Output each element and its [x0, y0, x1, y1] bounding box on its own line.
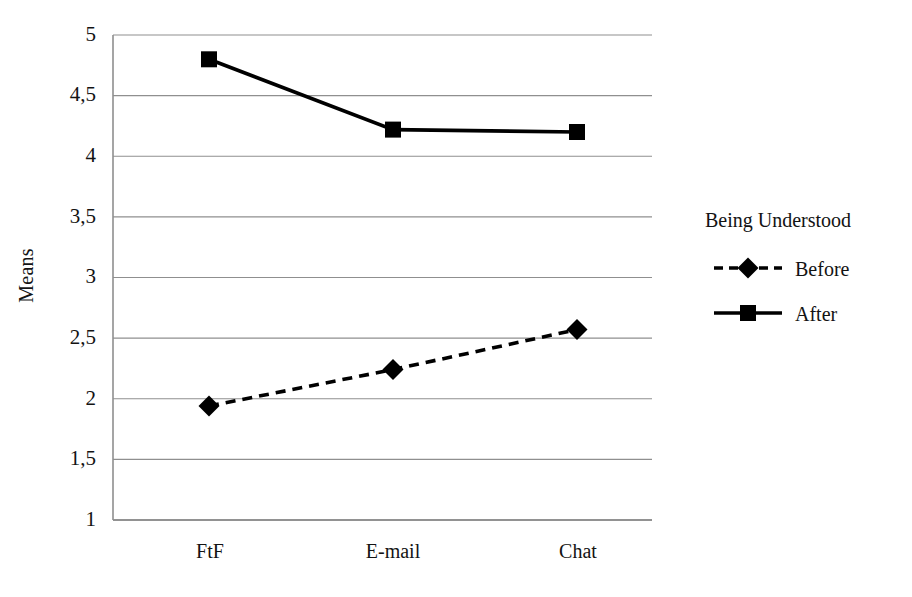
series-after-marker-chat — [569, 124, 585, 140]
line-chart-figure: Means 5 4,5 4 3,5 3 2,5 2 1,5 1 FtF E-ma… — [0, 0, 912, 597]
legend-marker-square-icon — [740, 305, 756, 321]
plot-canvas — [0, 0, 912, 597]
legend-swatch-after — [714, 305, 782, 321]
legend-marker-diamond-icon — [738, 258, 759, 279]
gridlines — [113, 35, 652, 459]
legend-swatch-before — [714, 258, 782, 279]
series-before — [199, 319, 588, 416]
series-after-marker-ftf — [201, 51, 217, 67]
series-after-marker-email — [385, 122, 401, 138]
series-before-marker-email — [383, 359, 404, 380]
series-before-marker-chat — [567, 319, 588, 340]
